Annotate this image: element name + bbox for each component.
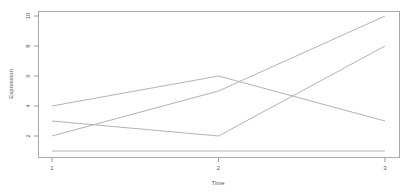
y-tick-label: 10 bbox=[25, 12, 31, 19]
x-axis: 123 bbox=[50, 158, 387, 172]
y-axis: 246810 bbox=[25, 12, 39, 138]
x-tick-label: 2 bbox=[217, 165, 221, 171]
series-line-2 bbox=[52, 76, 385, 121]
y-tick-label: 4 bbox=[25, 104, 31, 108]
y-tick-label: 2 bbox=[25, 134, 31, 138]
x-tick-label: 3 bbox=[383, 165, 387, 171]
x-axis-label: Time bbox=[211, 180, 225, 186]
series-lines bbox=[52, 16, 385, 151]
y-tick-label: 8 bbox=[25, 44, 31, 48]
y-tick-label: 6 bbox=[25, 74, 31, 78]
x-tick-label: 1 bbox=[50, 165, 54, 171]
y-axis-label: Expression bbox=[8, 69, 14, 99]
line-chart: 246810 123 Time Expression bbox=[0, 0, 407, 196]
